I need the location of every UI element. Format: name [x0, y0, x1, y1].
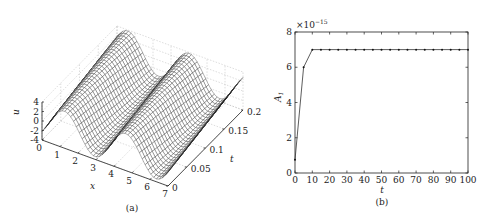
- x-axis-label-b: t: [380, 185, 384, 195]
- u-tick-label: -2: [30, 126, 39, 136]
- u-tick-label: 4: [33, 97, 39, 107]
- x-tick-label: 4: [108, 169, 114, 179]
- data-point: [406, 49, 408, 51]
- data-point: [450, 49, 452, 51]
- caption-b: (b): [376, 197, 389, 207]
- t-tick-label: 0.05: [191, 164, 211, 174]
- x-tick-label: 30: [341, 175, 353, 185]
- data-point: [320, 49, 322, 51]
- data-point: [467, 49, 469, 51]
- data-point: [311, 49, 313, 51]
- x-tick-label: 1: [54, 150, 60, 160]
- t-tick-label: 0.1: [210, 145, 224, 155]
- z-axis-label: u: [11, 109, 21, 115]
- y-tick-label: 2: [286, 133, 292, 143]
- data-point: [363, 49, 365, 51]
- data-point: [432, 49, 434, 51]
- x-tick-label: 10: [307, 175, 319, 185]
- x-tick-label: 40: [358, 175, 370, 185]
- data-point: [415, 49, 417, 51]
- line-chart-b: 010203040506070809010002468 ×10−15 A1 t …: [273, 18, 477, 207]
- data-point: [398, 49, 400, 51]
- x-tick-label: 60: [393, 175, 405, 185]
- x-tick-label: 3: [90, 163, 96, 173]
- data-point: [329, 49, 331, 51]
- x-axis-label: x: [90, 181, 95, 191]
- u-tick-label: 2: [33, 107, 39, 117]
- x-tick-label: 50: [376, 175, 388, 185]
- data-point: [355, 49, 357, 51]
- y-tick-label: 4: [286, 98, 292, 108]
- data-point: [458, 49, 460, 51]
- data-point: [337, 49, 339, 51]
- y-scale-label: ×10−15: [296, 18, 328, 30]
- x-tick-label: 2: [72, 156, 78, 166]
- x-tick-label: 0: [292, 175, 298, 185]
- data-point: [303, 66, 305, 68]
- caption-a: (a): [126, 203, 138, 213]
- figure: 0123456700.050.10.150.2420-2-4 u x t (a)…: [0, 0, 493, 224]
- data-point: [424, 49, 426, 51]
- plot-frame-b: [295, 32, 468, 173]
- x-tick-label: 5: [126, 176, 132, 186]
- data-point: [346, 49, 348, 51]
- x-tick-label: 100: [459, 175, 476, 185]
- x-tick-label: 6: [144, 182, 150, 192]
- data-point: [389, 49, 391, 51]
- surface-plot-a: 0123456700.050.10.150.2420-2-4 u x t (a): [11, 26, 261, 213]
- t-tick-label: 0: [172, 183, 178, 193]
- series-line-a1: [295, 50, 468, 160]
- y-tick-label: 8: [286, 27, 292, 37]
- data-point: [294, 159, 296, 161]
- x-tick-label: 90: [445, 175, 457, 185]
- data-point: [372, 49, 374, 51]
- y-axis-label-b: A1: [273, 92, 284, 103]
- x-tick-label: 70: [410, 175, 422, 185]
- x-tick-label: 80: [428, 175, 440, 185]
- y-tick-label: 6: [286, 62, 292, 72]
- x-tick-label: 7: [162, 189, 168, 199]
- y-tick-label: 0: [286, 168, 292, 178]
- x-tick-label: 20: [324, 175, 336, 185]
- u-tick-label: 0: [33, 116, 39, 126]
- data-point: [441, 49, 443, 51]
- t-axis-label: t: [230, 154, 234, 164]
- t-tick-label: 0.2: [247, 107, 261, 117]
- data-point: [381, 49, 383, 51]
- t-tick-label: 0.15: [228, 126, 248, 136]
- ticks-b: 010203040506070809010002468: [286, 27, 477, 185]
- u-tick-label: -4: [30, 135, 39, 145]
- series-markers-a1: [294, 49, 469, 161]
